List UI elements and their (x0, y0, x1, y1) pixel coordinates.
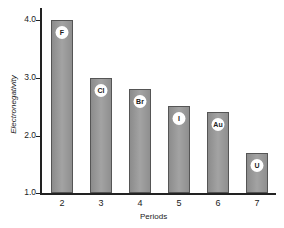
electronegativity-bar-chart: Electronegativity 1.0 2.0 3.0 4.0 F Cl B… (0, 0, 284, 228)
element-badge: Br (134, 95, 147, 108)
y-tick (36, 193, 41, 194)
bar: Au (207, 112, 229, 193)
x-axis-title: Periods (140, 212, 167, 221)
y-tick (36, 136, 41, 137)
element-badge: U (251, 159, 264, 172)
y-tick (36, 20, 41, 21)
y-tick-label: 2.0 (14, 130, 36, 140)
element-badge: Au (212, 118, 225, 131)
element-badge: F (56, 26, 69, 39)
y-tick-label: 4.0 (14, 14, 36, 24)
bar: F (51, 20, 73, 193)
x-tick-label: 4 (129, 198, 151, 208)
bar: Br (129, 89, 151, 193)
y-tick-label: 1.0 (14, 187, 36, 197)
x-tick-label: 3 (90, 198, 112, 208)
bar: U (246, 153, 268, 193)
element-badge: I (173, 112, 186, 125)
bar: I (168, 106, 190, 193)
x-tick-label: 7 (246, 198, 268, 208)
y-tick (36, 78, 41, 79)
x-tick-label: 5 (168, 198, 190, 208)
x-tick-label: 6 (207, 198, 229, 208)
x-axis (40, 193, 276, 195)
y-axis (40, 8, 42, 194)
bar: Cl (90, 78, 112, 193)
element-badge: Cl (95, 84, 108, 97)
y-tick-label: 3.0 (14, 72, 36, 82)
x-tick-label: 2 (51, 198, 73, 208)
